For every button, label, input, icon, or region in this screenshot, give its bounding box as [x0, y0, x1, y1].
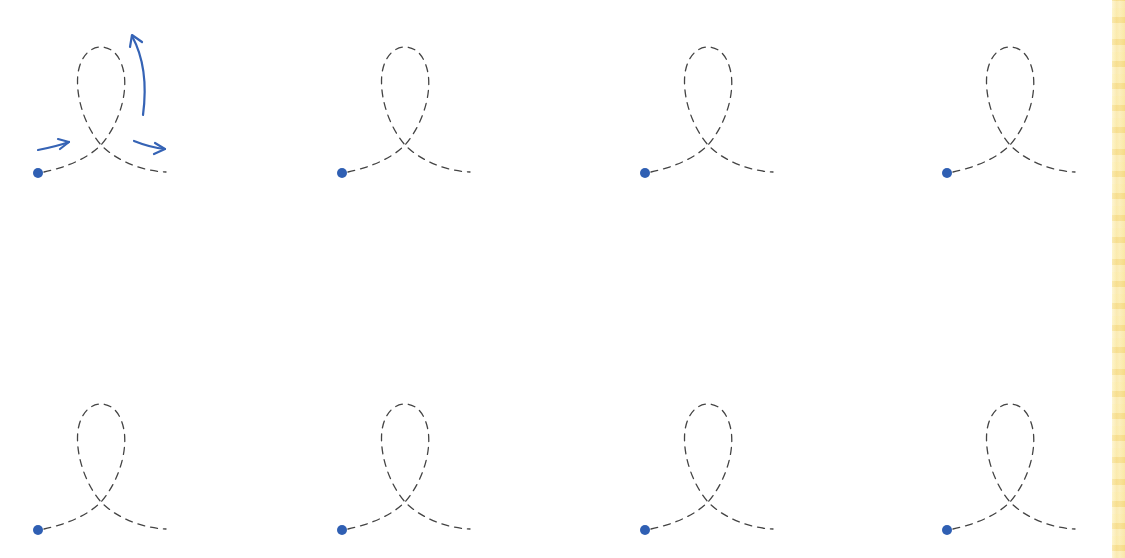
- exit-arrow-icon: [134, 141, 165, 154]
- loop-shape-r2c1: [33, 404, 166, 535]
- loop-shape-r2c2: [337, 404, 470, 535]
- loop-shape-r1c4: [942, 47, 1075, 178]
- loop-shape-r1c2: [337, 47, 470, 178]
- loop-shape-r1c1: [33, 47, 166, 178]
- loop-shape-r2c4: [942, 404, 1075, 535]
- paper-edge-strip: [1112, 0, 1125, 558]
- worksheet-canvas: [0, 0, 1112, 558]
- entry-arrow-icon: [38, 139, 69, 150]
- loop-shape-r1c3: [640, 47, 773, 178]
- loop-arrow-icon: [130, 35, 145, 115]
- loop-shape-r2c3: [640, 404, 773, 535]
- tracing-worksheet: [0, 0, 1112, 558]
